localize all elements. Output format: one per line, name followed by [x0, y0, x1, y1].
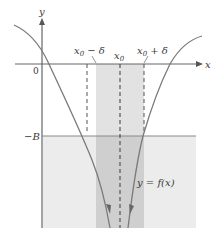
- y-axis-arrow-icon: [39, 18, 45, 25]
- x-axis-label: x: [205, 59, 211, 70]
- origin-label: 0: [33, 66, 39, 76]
- x-axis-arrow-icon: [196, 61, 203, 67]
- leader-x0-minus-delta: [92, 56, 96, 63]
- label-x0-plus-delta: x0 + δ: [137, 45, 168, 58]
- label-x0-minus-delta: x0 − δ: [74, 45, 105, 58]
- y-axis-label: y: [38, 6, 45, 17]
- label-function: y = f(x): [136, 177, 175, 188]
- vertical-asymptote-diagram: y x 0 x0 − δ x0 x0 + δ −B y = f(x): [0, 0, 218, 248]
- label-x0: x0: [114, 50, 125, 63]
- label-neg-b: −B: [24, 131, 40, 142]
